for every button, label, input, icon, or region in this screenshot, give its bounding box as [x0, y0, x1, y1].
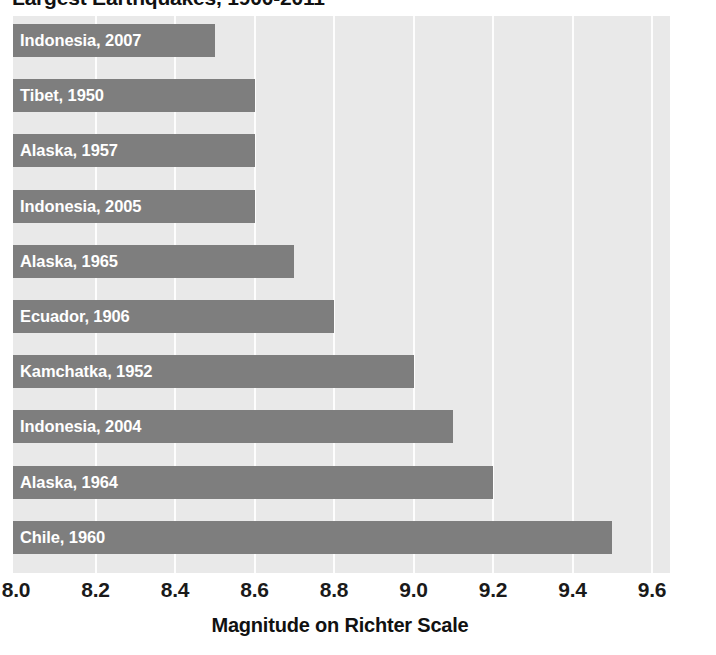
x-axis-title: Magnitude on Richter Scale [0, 614, 680, 637]
bar-label: Indonesia, 2005 [13, 197, 141, 216]
plot-area: Indonesia, 2007Tibet, 1950Alaska, 1957In… [13, 16, 670, 573]
x-axis-tick-label: 8.2 [81, 578, 109, 602]
x-axis-tick-label: 8.4 [161, 578, 189, 602]
bar[interactable]: Alaska, 1965 [13, 245, 294, 278]
x-axis-tick-label: 8.6 [240, 578, 268, 602]
bar[interactable]: Alaska, 1957 [13, 134, 255, 167]
bar-label: Kamchatka, 1952 [13, 362, 152, 381]
bar-label: Tibet, 1950 [13, 86, 104, 105]
bar[interactable]: Indonesia, 2007 [13, 24, 215, 57]
bar[interactable]: Indonesia, 2005 [13, 190, 255, 223]
bar-series: Indonesia, 2007Tibet, 1950Alaska, 1957In… [13, 16, 670, 573]
x-axis-tick-label: 8.0 [2, 578, 30, 602]
bar-label: Indonesia, 2007 [13, 31, 141, 50]
bar-label: Indonesia, 2004 [13, 417, 141, 436]
bar[interactable]: Tibet, 1950 [13, 79, 255, 112]
bar-label: Alaska, 1957 [13, 141, 118, 160]
bar[interactable]: Kamchatka, 1952 [13, 355, 414, 388]
bar[interactable]: Indonesia, 2004 [13, 410, 453, 443]
bar-label: Alaska, 1965 [13, 252, 118, 271]
x-axis-tick-labels: 8.08.28.48.68.89.09.29.49.6 [0, 578, 716, 604]
x-axis-tick-label: 9.4 [558, 578, 586, 602]
bar-label: Ecuador, 1906 [13, 307, 130, 326]
x-axis-tick-label: 9.0 [399, 578, 427, 602]
x-axis-tick-label: 9.2 [479, 578, 507, 602]
earthquake-magnitude-bar-chart: Largest Earthquakes, 1900-2011 Indonesia… [0, 0, 716, 655]
bar[interactable]: Alaska, 1964 [13, 466, 493, 499]
bar-label: Chile, 1960 [13, 528, 105, 547]
x-axis-tick-label: 8.8 [320, 578, 348, 602]
x-axis-tick-label: 9.6 [638, 578, 666, 602]
chart-title: Largest Earthquakes, 1900-2011 [12, 0, 325, 10]
bar[interactable]: Chile, 1960 [13, 521, 612, 554]
bar-label: Alaska, 1964 [13, 473, 118, 492]
bar[interactable]: Ecuador, 1906 [13, 300, 334, 333]
